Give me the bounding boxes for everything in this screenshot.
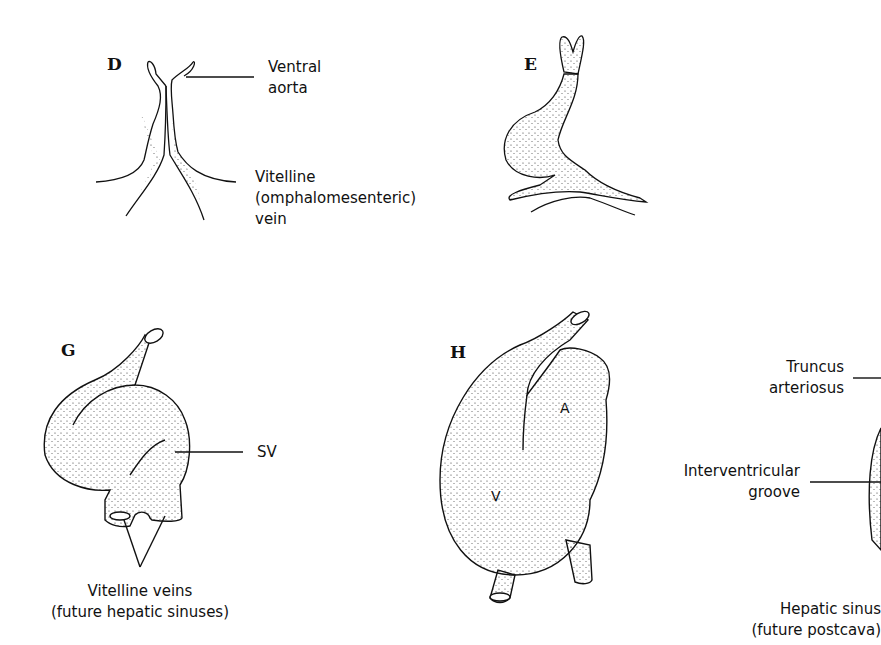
label-ventral-aorta-line1: Ventral [268, 58, 321, 77]
label-sv: SV [257, 443, 277, 462]
panel-i-partial-drawing [810, 378, 881, 550]
embryonic-heart-development-figure: D E G H Ventral aorta Vitelline (omphalo… [0, 0, 881, 645]
panel-letter-h: H [450, 342, 466, 362]
panel-d-drawing [96, 62, 254, 221]
label-truncus-line1: Truncus [680, 358, 844, 377]
label-vitelline-line1: Vitelline [255, 168, 315, 187]
panel-letter-d: D [107, 54, 122, 74]
label-vitelline-veins-line1: Vitelline veins [30, 582, 250, 601]
label-vitelline-line2: (omphalomesenteric) [255, 189, 416, 208]
label-ventral-aorta-line2: aorta [268, 79, 308, 98]
panel-letter-g: G [61, 340, 76, 360]
panel-g-drawing [44, 326, 243, 567]
label-vitelline-line3: vein [255, 210, 287, 229]
label-hepatic-sinus-line1: Hepatic sinus [700, 600, 881, 619]
label-interventricular-line2: groove [620, 483, 800, 502]
label-truncus-line2: arteriosus [680, 379, 844, 398]
label-ventricle: V [491, 488, 501, 504]
label-atrium: A [560, 400, 570, 416]
label-interventricular-line1: Interventricular [620, 462, 800, 481]
panel-letter-e: E [524, 54, 537, 74]
drawings [0, 0, 881, 645]
label-vitelline-veins-line2: (future hepatic sinuses) [30, 603, 250, 622]
label-hepatic-sinus-line2: (future postcava) [700, 621, 881, 640]
